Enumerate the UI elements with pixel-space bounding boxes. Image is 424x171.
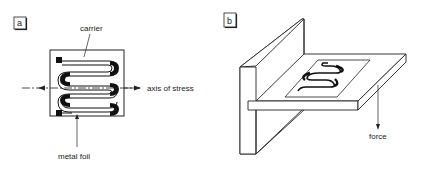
panel-a: a axis of stres xyxy=(14,17,194,161)
panel-a-label: a xyxy=(17,18,22,28)
panel-a-label-box: a xyxy=(14,17,27,30)
panel-b-label: b xyxy=(227,16,232,26)
strain-gauge-diagram: a axis of stres xyxy=(0,0,424,171)
carrier-leader xyxy=(84,34,90,57)
right-arrow-icon xyxy=(124,86,141,91)
terminal-pad-bottom xyxy=(56,110,62,116)
panel-b: b xyxy=(224,13,406,154)
terminal-pad-top xyxy=(56,57,62,63)
left-arrow-icon xyxy=(38,86,45,91)
carrier-label: carrier xyxy=(80,24,103,33)
force-arrow-icon xyxy=(376,124,380,130)
panel-b-label-box: b xyxy=(224,13,237,28)
axis-of-stress-label: axis of stress xyxy=(147,84,194,93)
force-label: force xyxy=(369,132,387,141)
metal-foil-label: metal foil xyxy=(58,152,90,161)
